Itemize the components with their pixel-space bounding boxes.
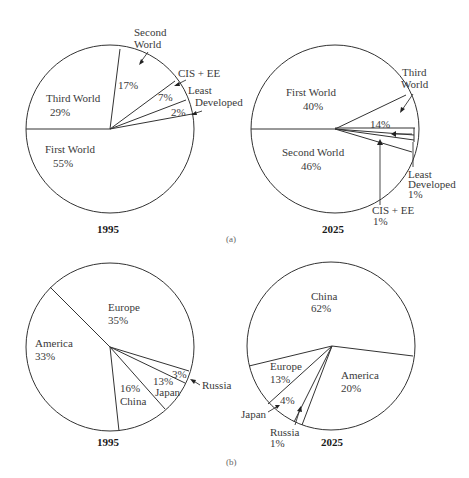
panel-caption-a: (a) <box>226 234 236 244</box>
pct-europe: 13% <box>270 373 290 385</box>
pct-america: 20% <box>341 382 361 394</box>
pct-russia: 3% <box>172 368 187 380</box>
arrowhead-icon <box>139 59 144 65</box>
label-least-developed-2: Developed <box>195 96 243 108</box>
chart-title-1995: 1995 <box>97 223 120 235</box>
pie-b-1995: Europe 35% America 33% 16% China 13% Jap… <box>26 263 231 448</box>
label-europe: Europe <box>270 360 302 372</box>
label-japan: Japan <box>155 386 181 398</box>
label-russia: Russia <box>202 379 231 391</box>
label-third-world: Third World <box>46 92 101 104</box>
label-cis-ee: CIS + EE <box>178 67 221 79</box>
slice-divider <box>302 346 332 425</box>
label-america: America <box>35 337 73 349</box>
chart-title-1995: 1995 <box>97 436 120 448</box>
figure: Third World 29% First World 55% 17% Seco… <box>0 0 469 478</box>
pct-china: 62% <box>311 302 331 314</box>
label-china: China <box>120 395 146 407</box>
arrowhead-icon <box>174 82 180 86</box>
pct-first-world: 40% <box>303 100 323 112</box>
pct-least-developed: 1% <box>408 188 423 200</box>
label-second-world: Second World <box>282 146 345 158</box>
pct-russia: 1% <box>270 437 285 449</box>
label-first-world: First World <box>45 143 95 155</box>
pct-second-world: 17% <box>118 79 138 91</box>
pct-cis-ee: 7% <box>158 91 173 103</box>
pct-least-developed: 2% <box>171 106 186 118</box>
slice-divider <box>110 347 119 431</box>
pct-third-world: 29% <box>50 106 70 118</box>
arrowhead-icon <box>400 107 405 113</box>
chart-title-2025: 2025 <box>322 223 345 235</box>
label-china: China <box>311 290 337 302</box>
label-second-world-1: Second <box>134 26 167 38</box>
arrowhead-icon <box>391 131 396 137</box>
label-europe: Europe <box>108 301 140 313</box>
slice-divider <box>335 129 412 152</box>
label-second-world-2: World <box>134 38 162 50</box>
pct-third-world: 14% <box>370 118 390 130</box>
pct-cis-ee: 1% <box>373 215 388 227</box>
pct-china: 16% <box>120 382 140 394</box>
slice-divider <box>332 346 413 356</box>
pct-america: 33% <box>35 350 55 362</box>
chart-title-2025: 2025 <box>321 436 344 448</box>
pct-first-world: 55% <box>53 157 73 169</box>
label-first-world: First World <box>286 86 336 98</box>
pct-second-world: 46% <box>301 160 321 172</box>
arrowhead-icon <box>190 379 196 384</box>
pie-a-2025: First World 40% Second World 46% 14% Thi… <box>251 45 456 235</box>
pct-japan: 4% <box>280 394 295 406</box>
label-japan: Japan <box>241 408 267 420</box>
label-third-world-1: Third <box>402 66 427 78</box>
label-third-world-2: World <box>401 78 429 90</box>
pie-b-2025: China 62% America 20% Europe 13% 4% Japa… <box>241 262 415 449</box>
label-least-developed-1: Least <box>188 84 212 96</box>
pie-a-1995: Third World 29% First World 55% 17% Seco… <box>26 26 243 235</box>
panel-caption-b: (b) <box>226 457 237 467</box>
pct-europe: 35% <box>108 314 128 326</box>
label-america: America <box>341 369 379 381</box>
